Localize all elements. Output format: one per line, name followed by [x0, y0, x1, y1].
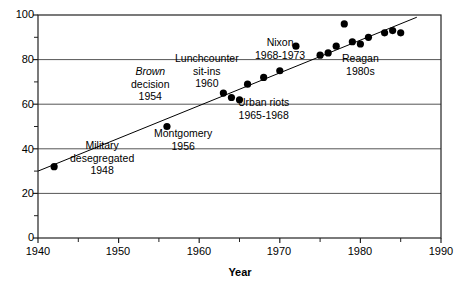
- annotation-military-desegregated: Militarydesegregated1948: [70, 139, 134, 177]
- annotation-reagan: Reagan1980s: [342, 52, 379, 77]
- annotation-line: 1956: [154, 140, 212, 153]
- annotation-line: 1954: [131, 90, 170, 103]
- annotation-line: Lunchcounter: [175, 52, 239, 65]
- y-tick-label-60: 60: [4, 99, 34, 110]
- y-tick-label-40: 40: [4, 144, 34, 155]
- data-point-18: [397, 29, 404, 36]
- annotation-montgomery: Montgomery1956: [154, 127, 212, 152]
- annotation-line: decision: [131, 78, 170, 91]
- annotation-lunchcounter-sit-ins: Lunchcountersit-ins1960: [175, 52, 239, 90]
- data-point-16: [381, 29, 388, 36]
- annotation-line: Reagan: [342, 52, 379, 65]
- annotation-line: Urban riots: [238, 96, 289, 109]
- annotation-line: Montgomery: [154, 127, 212, 140]
- y-tick-label-80: 80: [4, 54, 34, 65]
- data-point-10: [325, 49, 332, 56]
- annotation-line: Brown: [131, 65, 170, 78]
- annotation-line: desegregated: [70, 152, 134, 165]
- annotation-line: 1980s: [342, 65, 379, 78]
- annotation-nixon: Nixon1968-1973: [255, 36, 305, 61]
- annotation-line: 1965-1968: [238, 109, 289, 122]
- data-point-13: [349, 38, 356, 45]
- x-tick-label-1990: 1990: [416, 246, 464, 257]
- x-tick-label-1940: 1940: [13, 246, 63, 257]
- data-point-3: [228, 94, 235, 101]
- x-tick-label-1960: 1960: [174, 246, 224, 257]
- annotation-line: Military: [70, 139, 134, 152]
- data-point-2: [220, 89, 227, 96]
- annotation-urban-riots: Urban riots1965-1968: [238, 96, 289, 121]
- data-point-17: [389, 27, 396, 34]
- data-point-9: [317, 52, 324, 59]
- data-point-0: [51, 163, 58, 170]
- x-axis-title: Year: [190, 266, 290, 278]
- x-tick-label-1950: 1950: [93, 246, 143, 257]
- annotation-line: Nixon: [255, 36, 305, 49]
- y-tick-label-20: 20: [4, 188, 34, 199]
- data-point-12: [341, 20, 348, 27]
- y-tick-label-0: 0: [4, 232, 34, 243]
- annotation-line: sit-ins: [175, 65, 239, 78]
- annotation-line: 1960: [175, 77, 239, 90]
- annotation-brown-decision: Browndecision1954: [131, 65, 170, 103]
- data-point-6: [260, 74, 267, 81]
- data-point-14: [357, 40, 364, 47]
- x-tick-label-1980: 1980: [335, 246, 385, 257]
- data-point-7: [276, 67, 283, 74]
- data-point-11: [333, 43, 340, 50]
- annotation-line: 1968-1973: [255, 49, 305, 62]
- plot-frame: [38, 15, 441, 238]
- x-tick-label-1970: 1970: [254, 246, 304, 257]
- chart-container: 100 80 60 40 20 0 1940 1950 1960 1970 19…: [0, 0, 464, 284]
- data-point-15: [365, 34, 372, 41]
- y-tick-label-100: 100: [4, 9, 34, 20]
- data-point-5: [244, 81, 251, 88]
- annotation-line: 1948: [70, 164, 134, 177]
